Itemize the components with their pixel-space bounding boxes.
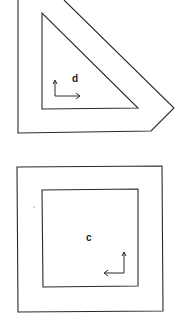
- axis-arrows-icon: [104, 252, 126, 276]
- figure-d: d: [18, 0, 174, 133]
- diagram-canvas: d c: [0, 0, 176, 321]
- label-d: d: [72, 73, 78, 84]
- figure-c: c: [17, 166, 163, 312]
- inner-triangle-d: [42, 13, 138, 109]
- speck: [33, 206, 34, 207]
- label-c: c: [86, 232, 92, 243]
